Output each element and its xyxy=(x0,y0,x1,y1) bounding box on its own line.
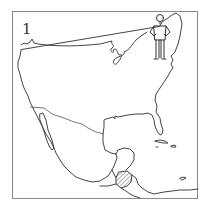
standing-man-figure xyxy=(150,15,170,60)
central-america xyxy=(100,170,198,198)
cuba xyxy=(155,140,168,143)
mainland-coastline xyxy=(18,13,182,182)
us-mexico-border xyxy=(30,107,104,134)
north-america-map xyxy=(0,0,211,209)
yucatan-peninsula xyxy=(116,148,134,170)
hispaniola xyxy=(171,145,176,147)
puerto-rico xyxy=(180,177,186,180)
guatemala-highlight xyxy=(116,171,132,188)
